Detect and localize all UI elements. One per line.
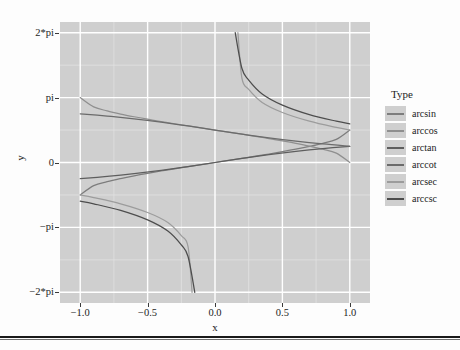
y-tick-label-1: pi [46,92,54,103]
x-tick-label-1: −0.5 [138,307,157,319]
y-axis-title: y [14,128,26,188]
chart-figure: 2*pipi0−pi−2*pi −1.0−0.50.00.51.0 x y Ty… [0,0,460,350]
plot-panel [60,22,370,303]
legend-line-swatch [387,113,404,115]
legend-label-arccot: arccot [412,159,436,170]
x-tick-mark-1 [148,303,149,307]
legend-line-swatch [387,198,404,200]
legend-item-arctan[interactable]: arctan [385,139,459,156]
legend-line-swatch [387,130,404,132]
legend-line-swatch [387,147,404,149]
y-tick-mark-2 [55,163,59,164]
series-line-arcsec [80,195,192,292]
x-tick-mark-4 [350,303,351,307]
series-line-arccsc [235,33,350,124]
y-tick-label-0: 2*pi [35,27,54,38]
legend-items: arcsinarccosarctanarccotarcsecarccsc [385,105,459,207]
y-tick-mark-1 [55,98,59,99]
y-tick-mark-0 [55,33,59,34]
x-tick-label-2: 0.0 [208,307,221,319]
figure-bottom-rule-shadow [0,339,460,340]
legend-key-arcsec [385,174,406,189]
legend-title: Type [391,88,459,100]
legend-label-arcsin: arcsin [412,108,436,119]
legend-label-arccos: arccos [412,125,438,136]
y-tick-mark-4 [55,292,59,293]
series-line-arccsc [80,201,195,292]
legend-line-swatch [387,181,404,183]
legend-label-arccsc: arccsc [412,193,437,204]
legend-item-arccsc[interactable]: arccsc [385,190,459,207]
legend-key-arctan [385,140,406,155]
legend: Type arcsinarccosarctanarccotarcsecarccs… [385,88,459,207]
legend-key-arccos [385,123,406,138]
plot-canvas [60,22,370,303]
legend-item-arccot[interactable]: arccot [385,156,459,173]
legend-item-arcsec[interactable]: arcsec [385,173,459,190]
x-tick-mark-2 [215,303,216,307]
legend-key-arcsin [385,106,406,121]
legend-key-arccot [385,157,406,172]
x-tick-label-3: 0.5 [276,307,289,319]
series-line-arcsec [238,33,350,130]
legend-label-arctan: arctan [412,142,436,153]
legend-item-arccos[interactable]: arccos [385,122,459,139]
legend-label-arcsec: arcsec [412,176,437,187]
x-tick-label-0: −1.0 [71,307,90,319]
y-tick-label-3: −pi [40,221,54,232]
x-tick-mark-0 [80,303,81,307]
legend-line-swatch [387,164,404,166]
x-axis-title: x [60,321,370,333]
x-tick-mark-3 [282,303,283,307]
y-tick-mark-3 [55,227,59,228]
x-tick-label-4: 1.0 [343,307,356,319]
figure-bottom-rule [0,336,460,338]
legend-item-arcsin[interactable]: arcsin [385,105,459,122]
legend-key-arccsc [385,191,406,206]
y-tick-label-4: −2*pi [29,286,54,297]
y-tick-label-2: 0 [49,157,54,168]
